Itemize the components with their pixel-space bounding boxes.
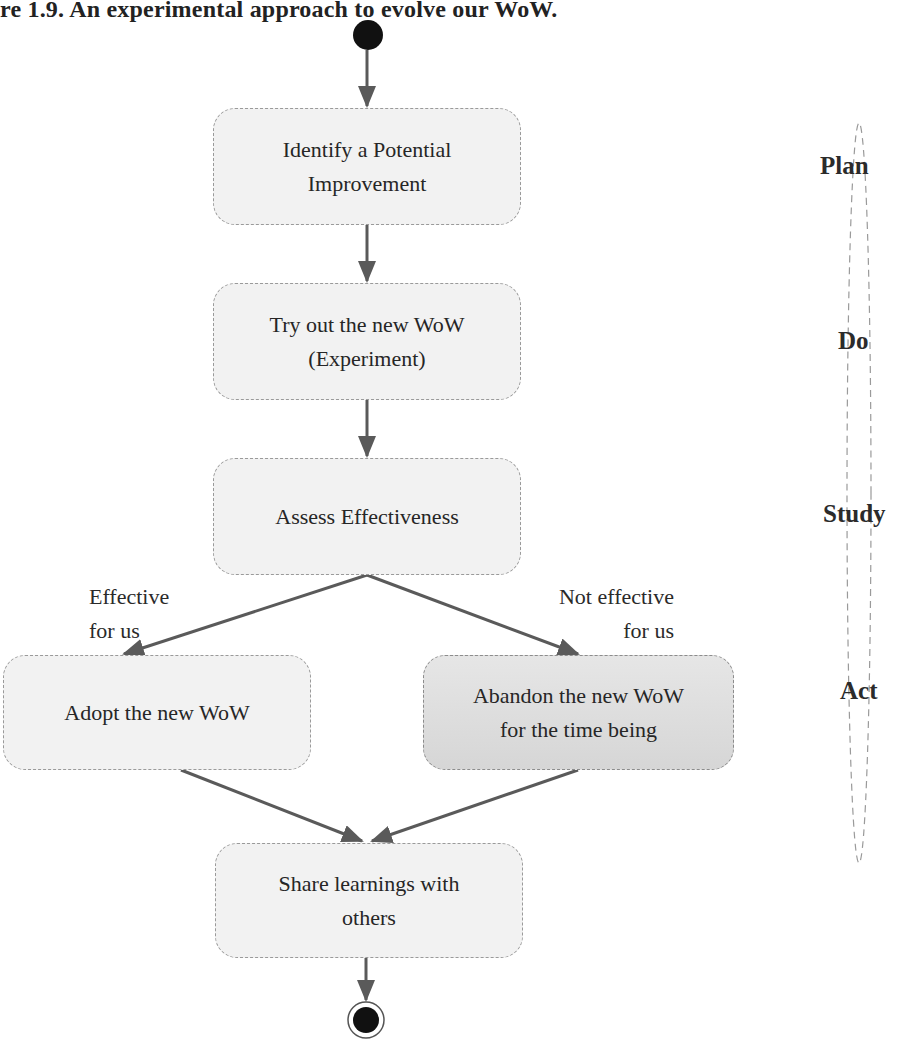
- pdsa-cycle-ellipse: [847, 123, 871, 863]
- start-node-icon: [353, 20, 383, 50]
- phase-do: Do: [838, 327, 869, 355]
- node-label: Assess Effectiveness: [275, 500, 459, 534]
- guard-not-effective: Not effective for us: [522, 580, 674, 648]
- node-identify-improvement: Identify a Potential Improvement: [213, 108, 521, 225]
- node-assess-effectiveness: Assess Effectiveness: [213, 458, 521, 575]
- guard-not-effective-line1: Not effective: [522, 580, 674, 614]
- guard-not-effective-line2: for us: [522, 614, 674, 648]
- node-label: Adopt the new WoW: [64, 696, 249, 730]
- node-label: Identify a Potential Improvement: [283, 133, 452, 201]
- node-share-learnings: Share learnings with others: [215, 843, 523, 958]
- phase-study: Study: [823, 500, 886, 528]
- guard-effective: Effective for us: [89, 580, 169, 648]
- node-label: Abandon the new WoW for the time being: [473, 679, 684, 747]
- phase-act: Act: [840, 677, 877, 705]
- phase-plan: Plan: [820, 152, 869, 180]
- node-label: Share learnings with others: [279, 867, 460, 935]
- node-label: Try out the new WoW (Experiment): [269, 308, 464, 376]
- node-adopt: Adopt the new WoW: [3, 655, 311, 770]
- node-try-experiment: Try out the new WoW (Experiment): [213, 283, 521, 400]
- node-abandon: Abandon the new WoW for the time being: [423, 655, 734, 770]
